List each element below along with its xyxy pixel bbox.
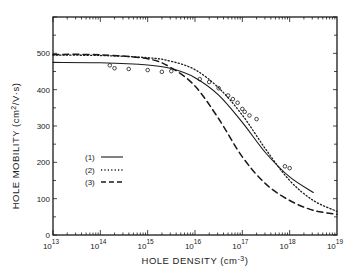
y-axis-title: HOLE MOBILITY (cm2/V·s)	[10, 83, 22, 210]
data-point-marker	[207, 80, 211, 84]
legend: (1)(2)(3)	[85, 153, 123, 187]
data-point-marker	[146, 68, 150, 72]
curve-3	[53, 54, 337, 214]
y-tick-label: 200	[37, 158, 51, 167]
legend-label-2: (2)	[85, 166, 95, 175]
x-tick-label: 1016	[185, 238, 202, 251]
x-tick-label: 1015	[138, 238, 155, 251]
data-point-marker	[236, 101, 240, 105]
data-point-marker	[248, 114, 252, 118]
y-tick-label: 400	[37, 86, 51, 95]
data-point-marker	[243, 110, 247, 114]
curve-2	[53, 55, 337, 211]
data-point-marker	[127, 67, 131, 71]
y-tick-label: 100	[37, 195, 51, 204]
data-point-marker	[108, 64, 112, 68]
x-tick-label: 1019	[327, 238, 344, 251]
data-point-marker	[255, 117, 259, 121]
data-point-marker	[283, 165, 287, 169]
x-axis-title: HOLE DENSITY (cm-3)	[142, 255, 249, 267]
axis-ticks: 1013101410151016101710181019010020030040…	[37, 17, 344, 251]
y-tick-label: 300	[37, 122, 51, 131]
data-point-marker	[226, 94, 230, 98]
mobility-chart: 1013101410151016101710181019010020030040…	[0, 0, 362, 277]
legend-label-3: (3)	[85, 178, 95, 187]
legend-label-1: (1)	[85, 153, 95, 162]
x-tick-label: 1014	[90, 238, 107, 251]
curves	[53, 54, 337, 214]
data-points	[108, 64, 291, 170]
data-point-marker	[231, 97, 235, 101]
data-point-marker	[113, 66, 117, 70]
x-tick-label: 1017	[232, 238, 249, 251]
data-point-marker	[288, 166, 292, 170]
y-tick-label: 500	[37, 49, 51, 58]
data-point-marker	[170, 69, 174, 73]
data-point-marker	[160, 70, 164, 74]
y-tick-label: 0	[46, 231, 51, 240]
x-tick-label: 1018	[280, 238, 297, 251]
